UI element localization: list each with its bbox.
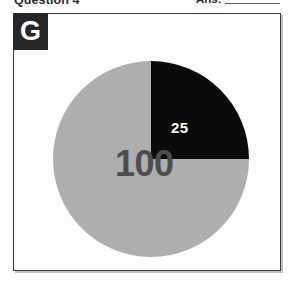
worksheet-header: Question 4 Ans: [0, 0, 296, 9]
pie-slice-shaded-label: 25 [171, 119, 188, 136]
question-number-label: Question 4 [14, 0, 80, 7]
pie-chart: 25 100 [53, 61, 249, 257]
answer-blank-line[interactable] [225, 3, 280, 4]
answer-label: Ans: [196, 0, 222, 5]
figure-letter-tag: G [13, 13, 48, 50]
pie-slice-whole-label: 100 [115, 146, 174, 182]
figure-frame: G 25 100 [13, 13, 281, 271]
